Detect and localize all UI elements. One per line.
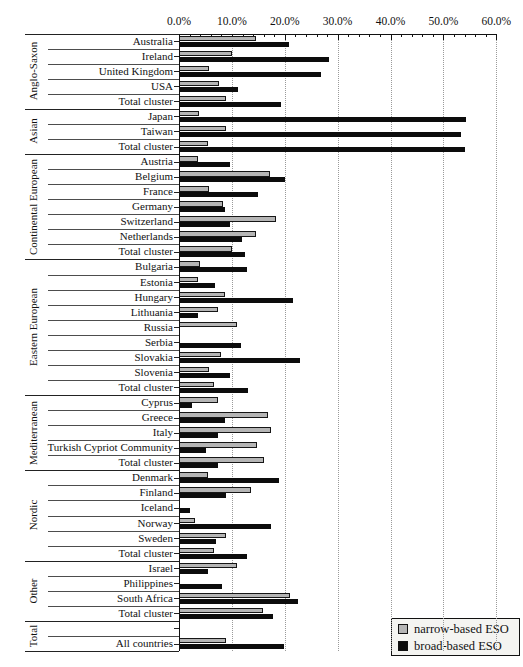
x-axis-minor-tick xyxy=(380,34,381,37)
x-axis-minor-tick xyxy=(465,34,466,37)
cluster-label-text: Eastern European xyxy=(27,288,39,366)
narrow-bar xyxy=(179,548,214,554)
narrow-bar xyxy=(179,638,226,644)
narrow-bar xyxy=(179,81,219,87)
country-label: Total cluster xyxy=(40,94,173,109)
narrow-bar xyxy=(179,216,276,222)
x-axis-minor-tick xyxy=(475,34,476,37)
broad-bar xyxy=(179,614,273,619)
broad-bar xyxy=(179,283,215,288)
broad-bar xyxy=(179,373,230,378)
country-label: Japan xyxy=(40,109,173,124)
country-label: Greece xyxy=(40,410,173,425)
country-label: Denmark xyxy=(40,470,173,485)
x-axis-minor-tick xyxy=(306,34,307,37)
country-label: Total cluster xyxy=(40,546,173,561)
x-axis-minor-tick xyxy=(369,34,370,37)
broad-bar xyxy=(179,177,285,182)
narrow-bar xyxy=(179,66,209,72)
narrow-bar xyxy=(179,246,232,252)
broad-bar xyxy=(179,147,465,152)
broad-bar xyxy=(179,57,329,62)
cluster-label-text: Asian xyxy=(27,119,39,145)
cluster-label-text: Mediterranean xyxy=(27,401,39,465)
narrow-bar xyxy=(179,533,226,539)
broad-bar xyxy=(179,644,284,649)
country-label: Italy xyxy=(40,425,173,440)
narrow-bar xyxy=(179,397,218,403)
country-label: Total cluster xyxy=(40,606,173,621)
country-label: Estonia xyxy=(40,275,173,290)
gridline xyxy=(391,34,392,652)
x-axis-minor-tick xyxy=(412,34,413,37)
x-axis-tick-label: 10.0% xyxy=(217,14,247,28)
country-label: Israel xyxy=(40,561,173,576)
broad-bar xyxy=(179,132,461,137)
narrow-bar xyxy=(179,608,263,614)
country-label: Sweden xyxy=(40,531,173,546)
x-axis-minor-tick xyxy=(348,34,349,37)
gridline xyxy=(443,34,444,652)
gridline xyxy=(338,34,339,652)
country-label: Germany xyxy=(40,199,173,214)
x-axis-minor-tick xyxy=(433,34,434,37)
narrow-bar xyxy=(179,126,226,132)
narrow-bar xyxy=(179,292,225,298)
gridline xyxy=(496,34,497,652)
country-label: Taiwan xyxy=(40,124,173,139)
broad-bar xyxy=(179,117,466,122)
narrow-bar xyxy=(179,171,270,177)
country-label: Switzerland xyxy=(40,214,173,229)
narrow-bar xyxy=(179,111,199,117)
broad-bar xyxy=(179,102,281,107)
country-label: Total cluster xyxy=(40,244,173,259)
broad-bar xyxy=(179,358,300,363)
broad-bar xyxy=(179,267,247,272)
x-axis-minor-tick xyxy=(274,34,275,37)
x-axis-minor-tick xyxy=(454,34,455,37)
broad-bar xyxy=(179,493,226,498)
broad-bar xyxy=(179,599,298,604)
x-axis-major-tick xyxy=(285,34,286,40)
narrow-bar xyxy=(179,307,218,313)
country-label: Total cluster xyxy=(40,380,173,395)
narrow-bar xyxy=(179,36,256,42)
group-separator xyxy=(25,651,179,652)
country-label: USA xyxy=(40,79,173,94)
narrow-bar xyxy=(179,487,251,493)
eso-cluster-bar-chart: narrow-based ESO broad-based ESO 0.0%10.… xyxy=(0,0,523,667)
x-axis-minor-tick xyxy=(264,34,265,37)
narrow-bar xyxy=(179,412,268,418)
broad-bar xyxy=(179,448,206,453)
cluster-label-text: Anglo-Saxon xyxy=(27,42,39,101)
legend-label-narrow: narrow-based ESO xyxy=(414,622,509,636)
broad-bar xyxy=(179,298,293,303)
legend-label-broad: broad-based ESO xyxy=(414,639,502,653)
gridline xyxy=(285,34,286,652)
broad-bar xyxy=(179,313,198,318)
country-label: Finland xyxy=(40,485,173,500)
broad-bar xyxy=(179,584,222,589)
country-label: France xyxy=(40,184,173,199)
x-axis-minor-tick xyxy=(486,34,487,37)
x-axis-tick-label: 60.0% xyxy=(481,14,511,28)
x-axis-major-tick xyxy=(391,34,392,40)
broad-bar xyxy=(179,433,218,438)
x-axis-tick-label: 40.0% xyxy=(376,14,406,28)
narrow-bar xyxy=(179,141,208,147)
country-label: Turkish Cypriot Community xyxy=(40,440,173,455)
x-axis-major-tick xyxy=(496,34,497,40)
narrow-bar xyxy=(179,277,198,283)
broad-bar xyxy=(179,569,208,574)
country-label: Total cluster xyxy=(40,139,173,154)
country-label: Norway xyxy=(40,516,173,531)
narrow-bar xyxy=(179,322,237,328)
country-label xyxy=(40,621,173,636)
broad-bar xyxy=(179,524,271,529)
country-label: United Kingdom xyxy=(40,64,173,79)
broad-bar xyxy=(179,252,245,257)
broad-bar xyxy=(179,207,225,212)
x-axis-tick-label: 20.0% xyxy=(270,14,300,28)
narrow-bar xyxy=(179,382,214,388)
country-label: Bulgaria xyxy=(40,259,173,274)
